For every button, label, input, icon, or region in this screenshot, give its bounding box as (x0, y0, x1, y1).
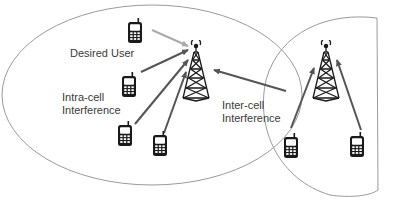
intra-cell-link-arrow-2 (135, 60, 188, 124)
desired-link-arrow (152, 30, 188, 46)
desired-user-phone-icon (128, 18, 142, 43)
intra-cell-phone-icon-2 (118, 121, 132, 146)
serving-cell-boundary (2, 5, 302, 185)
base-station-2-tower-icon (313, 38, 339, 101)
interference-diagram: Desired User Intra-cell Interference Int… (0, 0, 393, 202)
intra-cell-phone-icon-1 (122, 72, 136, 97)
neighbor-phone-icon-2 (350, 132, 364, 157)
neighbor-uplink-arrow-2 (337, 60, 361, 130)
intra-cell-label-line2: Interference (62, 104, 121, 117)
neighbor-uplink-arrow-1 (291, 68, 314, 128)
base-station-1-tower-icon (183, 38, 209, 101)
inter-cell-label-line2: Interference (222, 112, 281, 125)
desired-user-label: Desired User (70, 47, 134, 60)
intra-cell-phone-icon-3 (153, 131, 167, 156)
intra-cell-interference-label: Intra-cell Interference (62, 91, 121, 117)
inter-cell-label-line1: Inter-cell (222, 99, 281, 112)
intra-cell-label-line1: Intra-cell (62, 91, 121, 104)
intra-cell-link-arrow-3 (164, 72, 186, 133)
neighbor-phone-icon-1 (284, 133, 298, 158)
inter-cell-interference-label: Inter-cell Interference (222, 99, 281, 125)
inter-cell-link-arrow (214, 70, 286, 91)
diagram-canvas (0, 0, 393, 202)
